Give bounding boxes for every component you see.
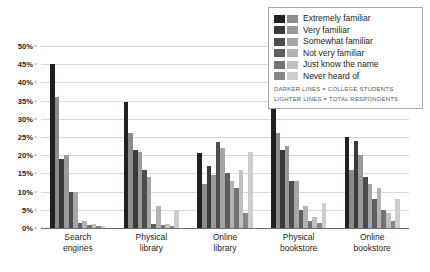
bar-group <box>115 46 189 228</box>
legend-item[interactable]: Never heard of <box>274 71 417 83</box>
bar-pair <box>243 152 252 228</box>
legend-item[interactable]: Just know the name <box>274 59 417 71</box>
bar-pair <box>59 155 68 228</box>
bar-pair <box>170 210 179 228</box>
bar-pair <box>271 97 280 228</box>
legend-swatch-college-students <box>274 38 285 46</box>
y-axis-tick-mark <box>34 64 37 65</box>
y-axis-tick-label: 0% <box>22 224 33 233</box>
legend-item[interactable]: Extremely familiar <box>274 13 417 25</box>
y-axis-tick-mark <box>34 118 37 119</box>
bar-pair <box>391 199 400 228</box>
bar-pair <box>345 137 354 228</box>
legend-item-label: Not very familiar <box>303 49 364 58</box>
x-axis: SearchenginesPhysicallibraryOnlinelibrar… <box>41 232 409 254</box>
bar-chart: 0%5%10%15%20%25%30%35%40%45%50% Searchen… <box>0 0 430 272</box>
bar-pair <box>87 224 96 228</box>
legend-note-lighter: LIGHTER LINES = TOTAL RESPONDENTS <box>274 95 417 104</box>
bar-pair <box>299 206 308 228</box>
bar-pair <box>354 141 363 228</box>
y-axis-tick-mark <box>34 191 37 192</box>
bar-pair <box>234 170 243 228</box>
legend-item[interactable]: Not very familiar <box>274 48 417 60</box>
bar-group <box>188 46 262 228</box>
bar-pair <box>317 203 326 228</box>
y-axis-tick-label: 20% <box>18 151 33 160</box>
legend-swatch-total-respondents <box>287 61 298 69</box>
bar-pair <box>161 224 170 228</box>
y-axis-tick-label: 25% <box>18 133 33 142</box>
legend-item[interactable]: Very familiar <box>274 25 417 37</box>
y-axis-tick-mark <box>34 46 37 47</box>
bar-pair <box>381 210 390 228</box>
bar-pair <box>363 177 372 228</box>
bar-pair <box>289 181 298 228</box>
legend-swatch-total-respondents <box>287 49 298 57</box>
bar-pair <box>207 166 216 228</box>
y-axis-tick-label: 30% <box>18 114 33 123</box>
legend-swatch-total-respondents <box>287 38 298 46</box>
y-axis-tick-label: 5% <box>22 205 33 214</box>
legend-item[interactable]: Somewhat familiar <box>274 36 417 48</box>
bar-pair <box>50 64 59 228</box>
y-axis-tick-mark <box>34 137 37 138</box>
x-axis-category-label: Onlinelibrary <box>188 232 262 254</box>
bar-total-respondents <box>101 226 106 228</box>
legend-swatch-total-respondents <box>287 26 298 34</box>
y-axis-tick-label: 45% <box>18 60 33 69</box>
bar-total-respondents <box>174 210 179 228</box>
x-axis-category-label: Physicalbookstore <box>262 232 336 254</box>
bar-pair <box>216 142 225 228</box>
y-axis-tick-label: 10% <box>18 187 33 196</box>
bar-pair <box>142 170 151 228</box>
y-axis-tick-mark <box>34 82 37 83</box>
legend-swatch-total-respondents <box>287 15 298 23</box>
bar-pair <box>133 150 142 228</box>
y-axis-tick-label: 15% <box>18 169 33 178</box>
bar-pair <box>197 153 206 228</box>
bar-pair <box>151 206 160 228</box>
legend-swatch-college-students <box>274 49 285 57</box>
y-axis-tick-mark <box>34 100 37 101</box>
bar-total-respondents <box>395 199 400 228</box>
legend-item-label: Extremely familiar <box>303 14 371 23</box>
y-axis-tick-label: 35% <box>18 96 33 105</box>
legend-item-label: Just know the name <box>303 60 379 69</box>
bar-pair <box>124 102 133 228</box>
bar-total-respondents <box>322 203 327 228</box>
y-axis-tick-label: 40% <box>18 78 33 87</box>
legend-swatch-college-students <box>274 26 285 34</box>
x-axis-category-label: Physicallibrary <box>115 232 189 254</box>
legend-items: Extremely familiarVery familiarSomewhat … <box>274 13 417 82</box>
x-axis-category-label: Onlinebookstore <box>335 232 409 254</box>
legend-item-label: Never heard of <box>303 72 359 81</box>
bar-pair <box>69 192 78 228</box>
bar-pair <box>225 173 234 228</box>
y-axis-tick-mark <box>34 209 37 210</box>
legend-item-label: Somewhat familiar <box>303 37 373 46</box>
y-axis-tick-mark <box>34 228 37 229</box>
y-axis-tick-mark <box>34 155 37 156</box>
bar-pair <box>78 221 87 228</box>
legend-swatch-college-students <box>274 61 285 69</box>
legend: Extremely familiarVery familiarSomewhat … <box>268 7 423 109</box>
legend-item-label: Very familiar <box>303 26 350 35</box>
bar-pair <box>372 188 381 228</box>
bar-pair <box>308 217 317 228</box>
bar-total-respondents <box>248 152 253 228</box>
legend-note-darker: DARKER LINES = COLLEGE STUDENTS <box>274 85 417 94</box>
y-axis: 0%5%10%15%20%25%30%35%40%45%50% <box>0 46 37 228</box>
y-axis-tick-label: 50% <box>18 42 33 51</box>
legend-swatch-college-students <box>274 15 285 23</box>
bar-group <box>41 46 115 228</box>
axis-baseline <box>41 228 409 229</box>
legend-swatch-total-respondents <box>287 72 298 80</box>
x-axis-category-label: Searchengines <box>41 232 115 254</box>
legend-swatch-college-students <box>274 72 285 80</box>
bar-pair <box>96 226 105 228</box>
bar-pair <box>280 146 289 228</box>
y-axis-tick-mark <box>34 173 37 174</box>
